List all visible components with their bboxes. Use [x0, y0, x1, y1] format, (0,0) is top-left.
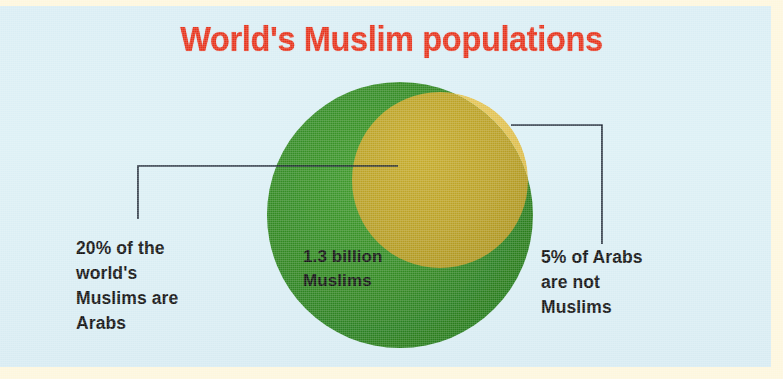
annotation-left-20-percent-arabs: 20% of the world's Muslims are Arabs — [76, 236, 256, 336]
venn-label-total-muslims: 1.3 billion Muslims — [303, 245, 473, 293]
annotation-right-5-percent-non-muslims: 5% of Arabs are not Muslims — [541, 245, 741, 320]
page-title: World's Muslim populations — [27, 19, 755, 59]
venn-circle-arabs-only — [352, 92, 528, 268]
figure-page: World's Muslim populations 20% of the wo… — [0, 0, 783, 379]
